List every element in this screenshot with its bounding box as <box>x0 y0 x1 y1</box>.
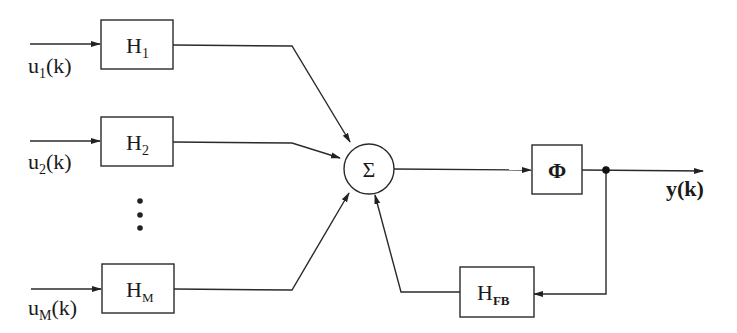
ellipsis-dots <box>137 198 143 231</box>
filter-label-h2: H2 <box>126 130 149 158</box>
edge-sum-phi <box>394 169 531 170</box>
feedback-filter-label: HFB <box>477 280 510 308</box>
edge-hfb-sum <box>375 195 460 292</box>
summer-label: Σ <box>363 157 376 182</box>
input-label-u2: u2(k) <box>28 149 72 177</box>
junction-dot <box>602 166 610 174</box>
block-diagram: u1(k) u2(k) uM(k) H1 H2 HM Σ Φ HFB y(k) <box>0 0 737 333</box>
feedback-line-down <box>534 170 606 294</box>
edge-hm-sum <box>174 193 349 290</box>
output-line <box>582 170 703 171</box>
nonlinearity-label: Φ <box>548 158 566 183</box>
feedback-filter-box <box>460 267 534 317</box>
edge-h2-sum <box>173 142 340 158</box>
diagram-canvas: u1(k) u2(k) uM(k) H1 H2 HM Σ Φ HFB y(k) <box>0 0 737 333</box>
filter-label-hm: HM <box>126 277 154 305</box>
output-label: y(k) <box>666 176 704 201</box>
filter-label-h1: H1 <box>126 33 149 61</box>
input-label-u1: u1(k) <box>28 53 72 81</box>
edge-h1-sum <box>173 45 350 142</box>
input-label-um: uM(k) <box>28 295 77 323</box>
